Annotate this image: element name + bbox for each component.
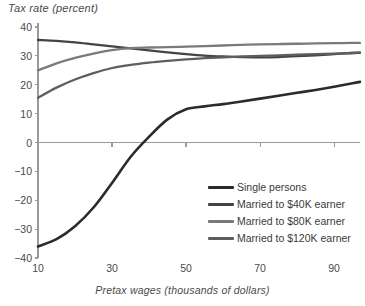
chart-legend: Single personsMarried to $40K earnerMarr…	[208, 180, 351, 245]
legend-line-swatch	[208, 203, 234, 206]
plot-area	[0, 0, 365, 306]
legend-item[interactable]: Single persons	[208, 180, 351, 194]
legend-label: Married to $120K earner	[237, 232, 351, 244]
legend-label: Married to $80K earner	[237, 215, 345, 227]
legend-item[interactable]: Married to $120K earner	[208, 231, 351, 245]
x-axis-tick-labels: 1030507090	[0, 262, 365, 278]
legend-line-swatch	[208, 220, 234, 223]
x-axis-tick-label: 70	[254, 262, 266, 274]
x-axis-title: Pretax wages (thousands of dollars)	[0, 284, 365, 296]
legend-label: Married to $40K earner	[237, 198, 345, 210]
legend-line-swatch	[208, 186, 234, 189]
x-axis-tick-label: 90	[328, 262, 340, 274]
legend-item[interactable]: Married to $40K earner	[208, 197, 351, 211]
legend-line-swatch	[208, 237, 234, 240]
legend-item[interactable]: Married to $80K earner	[208, 214, 351, 228]
x-axis-tick-label: 50	[180, 262, 192, 274]
legend-label: Single persons	[237, 181, 306, 193]
tax-rate-line-chart: Tax rate (percent) 403020100−10−20−30−40…	[0, 0, 365, 306]
x-axis-tick-label: 30	[106, 262, 118, 274]
x-axis-tick-label: 10	[32, 262, 44, 274]
